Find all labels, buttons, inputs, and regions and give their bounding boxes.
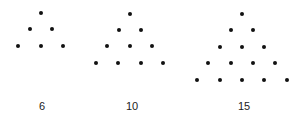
dot bbox=[251, 61, 255, 65]
dot bbox=[16, 44, 20, 48]
dot bbox=[251, 28, 255, 32]
dot bbox=[139, 61, 143, 65]
dot bbox=[116, 61, 120, 65]
dot bbox=[240, 78, 244, 82]
triangle-label-10: 10 bbox=[126, 100, 138, 112]
dot bbox=[285, 78, 289, 82]
dot bbox=[218, 45, 222, 49]
dot bbox=[39, 44, 43, 48]
dot bbox=[206, 61, 210, 65]
dot bbox=[94, 61, 98, 65]
dot bbox=[195, 78, 199, 82]
dot bbox=[218, 78, 222, 82]
dot bbox=[128, 12, 132, 16]
dot bbox=[229, 28, 233, 32]
dot bbox=[61, 44, 65, 48]
dot bbox=[229, 61, 233, 65]
triangle-label-6: 6 bbox=[39, 100, 45, 112]
dot bbox=[139, 28, 143, 32]
dot bbox=[128, 44, 132, 48]
dot bbox=[28, 27, 32, 31]
dot bbox=[262, 45, 266, 49]
dot bbox=[50, 27, 54, 31]
dot bbox=[150, 44, 154, 48]
dot bbox=[240, 45, 244, 49]
dot bbox=[240, 12, 244, 16]
triangular-numbers-figure: 6 10 15 bbox=[0, 0, 301, 125]
dot bbox=[273, 61, 277, 65]
dot bbox=[117, 28, 121, 32]
triangle-label-15: 15 bbox=[238, 100, 250, 112]
dot bbox=[105, 44, 109, 48]
dot bbox=[39, 11, 43, 15]
dot bbox=[262, 78, 266, 82]
dot bbox=[161, 61, 165, 65]
